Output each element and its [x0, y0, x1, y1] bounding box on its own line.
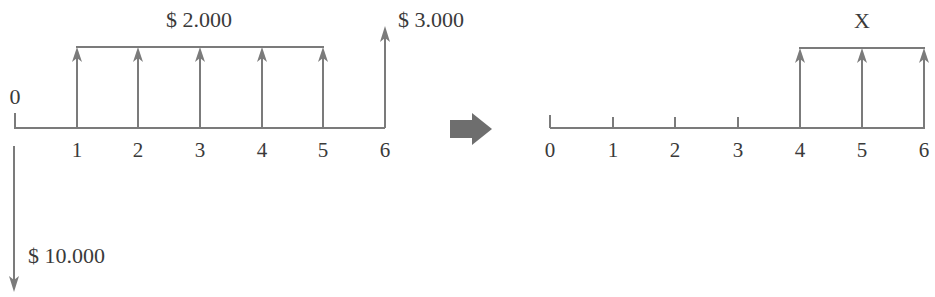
- right-block-arrow-icon: [450, 113, 492, 145]
- right-tick-label-4: 4: [795, 138, 806, 162]
- left-cash-flow-diagram: 0: [9, 7, 464, 292]
- left-arrow-up-t3: [195, 47, 205, 128]
- left-initial-outflow-label: $ 10.000: [28, 243, 105, 268]
- right-tick-labels: 0 1 2 3 4 5 6: [545, 138, 930, 162]
- left-tick-labels: 1 2 3 4 5 6: [72, 138, 391, 162]
- right-tick-label-0: 0: [545, 138, 556, 162]
- left-arrow-up-t6: [380, 26, 390, 128]
- right-arrow-up-t6: [919, 48, 929, 128]
- left-uniform-series-arrows: [72, 47, 328, 128]
- left-tick-label-1: 1: [72, 138, 83, 162]
- left-arrow-up-t2: [133, 47, 143, 128]
- left-tick-label-3: 3: [195, 138, 206, 162]
- left-arrow-up-t5: [318, 47, 328, 128]
- right-tick-label-2: 2: [670, 138, 681, 162]
- left-arrow-up-t4: [257, 47, 267, 128]
- left-tick-label-2: 2: [133, 138, 144, 162]
- left-tick-label-6: 6: [380, 138, 391, 162]
- right-tick-label-1: 1: [608, 138, 619, 162]
- right-arrow-up-t5: [857, 48, 867, 128]
- cash-flow-figure: 0: [0, 0, 935, 297]
- left-arrow-up-t1: [72, 47, 82, 128]
- left-origin-label: 0: [10, 84, 21, 109]
- right-tick-label-5: 5: [857, 138, 868, 162]
- right-tick-label-3: 3: [733, 138, 744, 162]
- right-arrow-up-t4: [795, 48, 805, 128]
- right-tick-label-6: 6: [919, 138, 930, 162]
- right-unknown-series-arrows: [795, 48, 929, 128]
- cash-flow-diagram-svg: 0: [0, 0, 935, 297]
- left-tick-label-5: 5: [318, 138, 329, 162]
- left-uniform-series-label: $ 2.000: [166, 7, 232, 32]
- left-arrow-down-t0: [9, 146, 19, 292]
- right-tick-marks: [550, 115, 738, 128]
- right-unknown-series-label: X: [854, 8, 870, 33]
- left-single-receipt-label: $ 3.000: [398, 7, 464, 32]
- left-tick-label-4: 4: [257, 138, 268, 162]
- right-cash-flow-diagram: X 0 1 2 3 4 5 6: [545, 8, 930, 162]
